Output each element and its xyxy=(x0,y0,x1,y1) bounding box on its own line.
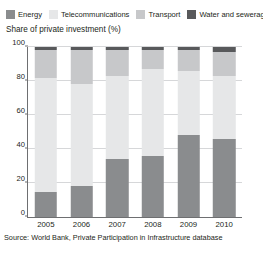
bar-segment-water-and-sewerage-2005[interactable] xyxy=(35,47,57,50)
bar-2007[interactable] xyxy=(106,47,128,217)
x-tick-label-2010: 2010 xyxy=(206,220,242,230)
y-tick-label: 60 xyxy=(17,107,25,115)
x-tick-label-2007: 2007 xyxy=(99,220,135,230)
bar-segment-transport-2006[interactable] xyxy=(70,50,92,84)
bar-segment-telecommunications-2006[interactable] xyxy=(70,84,92,186)
y-tick-label: 40 xyxy=(17,141,25,149)
legend-label-telecommunications: Telecommunications xyxy=(61,10,129,19)
legend-label-water-and-sewerage: Water and sewerage xyxy=(199,10,263,19)
bar-segment-energy-2008[interactable] xyxy=(142,156,164,217)
bar-2006[interactable] xyxy=(70,47,92,217)
bar-segment-energy-2010[interactable] xyxy=(213,139,235,217)
bar-2005[interactable] xyxy=(35,47,57,217)
bar-segment-energy-2009[interactable] xyxy=(177,135,199,217)
bar-2009[interactable] xyxy=(177,47,199,217)
x-tick-label-2006: 2006 xyxy=(64,220,100,230)
bar-segment-transport-2010[interactable] xyxy=(213,52,235,76)
bar-slot xyxy=(28,47,64,217)
y-tick-label: 20 xyxy=(17,175,25,183)
legend-item-water-and-sewerage[interactable]: Water and sewerage xyxy=(187,10,263,19)
x-tick-label-2009: 2009 xyxy=(171,220,207,230)
bar-segment-transport-2009[interactable] xyxy=(177,50,199,70)
bar-segment-telecommunications-2008[interactable] xyxy=(142,69,164,156)
bar-segment-telecommunications-2007[interactable] xyxy=(106,76,128,159)
bar-segment-water-and-sewerage-2006[interactable] xyxy=(70,47,92,50)
bar-segment-water-and-sewerage-2009[interactable] xyxy=(177,47,199,50)
y-tick-label: 80 xyxy=(17,73,25,81)
bar-slot xyxy=(171,47,207,217)
bar-segment-telecommunications-2009[interactable] xyxy=(177,71,199,136)
bar-2010[interactable] xyxy=(213,47,235,217)
legend-label-energy: Energy xyxy=(18,10,42,19)
bar-group xyxy=(28,47,242,217)
legend-swatch-transport xyxy=(136,10,145,19)
plot-area: 020406080100 xyxy=(27,47,242,218)
legend-item-energy[interactable]: Energy xyxy=(6,10,42,19)
bar-segment-energy-2006[interactable] xyxy=(70,186,92,217)
bar-slot xyxy=(64,47,100,217)
bar-segment-transport-2007[interactable] xyxy=(106,50,128,76)
bar-slot xyxy=(135,47,171,217)
bar-segment-telecommunications-2005[interactable] xyxy=(35,78,57,192)
legend-item-transport[interactable]: Transport xyxy=(136,10,180,19)
bar-segment-water-and-sewerage-2008[interactable] xyxy=(142,47,164,50)
x-tick-label-2008: 2008 xyxy=(135,220,171,230)
bar-segment-energy-2005[interactable] xyxy=(35,192,57,218)
y-axis-title: Share of private investment (%) xyxy=(6,25,121,35)
bar-segment-transport-2005[interactable] xyxy=(35,50,57,77)
bar-slot xyxy=(99,47,135,217)
legend-label-transport: Transport xyxy=(148,10,180,19)
plot-wrapper: 020406080100 200520062007200820092010 xyxy=(0,45,263,221)
bar-2008[interactable] xyxy=(142,47,164,217)
bar-segment-water-and-sewerage-2007[interactable] xyxy=(106,47,128,50)
legend-item-telecommunications[interactable]: Telecommunications xyxy=(49,10,129,19)
chart-figure: Energy Telecommunications Transport Wate… xyxy=(0,0,263,253)
bar-segment-telecommunications-2010[interactable] xyxy=(213,76,235,139)
legend-swatch-telecommunications xyxy=(49,10,58,19)
source-note: Source: World Bank, Private Participatio… xyxy=(4,233,222,242)
x-axis-labels: 200520062007200820092010 xyxy=(28,220,242,230)
x-tick-label-2005: 2005 xyxy=(28,220,64,230)
bar-segment-transport-2008[interactable] xyxy=(142,50,164,69)
legend-swatch-energy xyxy=(6,10,15,19)
chart-legend: Energy Telecommunications Transport Wate… xyxy=(6,6,258,22)
bar-segment-energy-2007[interactable] xyxy=(106,159,128,217)
y-tick-label: 100 xyxy=(12,39,25,47)
bar-segment-water-and-sewerage-2010[interactable] xyxy=(213,47,235,52)
legend-swatch-water-and-sewerage xyxy=(187,10,196,19)
bar-slot xyxy=(206,47,242,217)
